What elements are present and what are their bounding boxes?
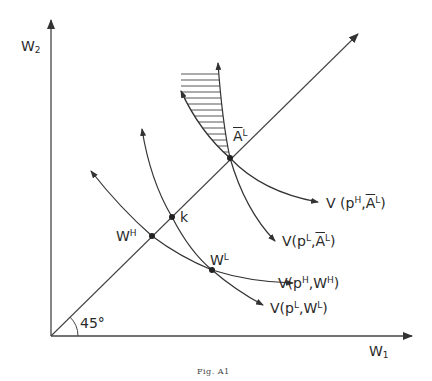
point-a-bar-l — [227, 155, 233, 161]
label-v-ph-al: V (pH,AL) — [326, 196, 386, 210]
curve-v-ph-wh — [91, 171, 152, 236]
curve-v-pl-wl — [142, 129, 172, 217]
x-axis-label: W1 — [369, 344, 389, 360]
figure-caption: Fig. A1 — [197, 367, 230, 376]
label-k: k — [180, 210, 188, 224]
label-w-h: WH — [116, 229, 137, 243]
angle-label: 45° — [80, 316, 105, 330]
curve-v-pl-al — [218, 63, 230, 158]
label-v-ph-wh: V(pH,WH) — [278, 276, 339, 290]
label-v-pl-wl: V(pL,WL) — [270, 301, 328, 315]
point-w-h — [149, 233, 155, 239]
hatched-region — [170, 74, 230, 152]
curve-v-ph-al — [181, 91, 230, 158]
curve-v-ph-al-lower — [230, 158, 318, 202]
label-a-bar-l: AL — [233, 129, 248, 143]
label-w-l: WL — [210, 253, 229, 267]
angle-arc — [70, 317, 78, 336]
y-axis-label: W2 — [21, 39, 41, 55]
label-v-pl-al: V(pL,AL) — [282, 234, 335, 248]
diagram-canvas — [0, 0, 432, 381]
curve-v-pl-al-lower — [230, 158, 275, 241]
point-k — [169, 214, 175, 220]
